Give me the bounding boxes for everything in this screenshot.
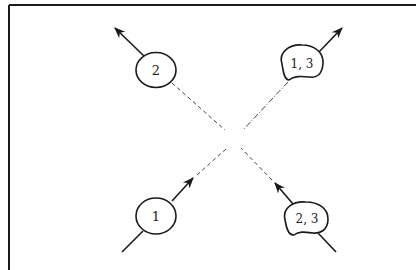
arrow-outgoing-icon [115, 28, 144, 56]
node-label: 2 [152, 63, 160, 78]
node-label: 1 [152, 209, 160, 224]
connector-node-1 [197, 149, 226, 175]
connector-node-1-3 [243, 82, 288, 130]
node-label: 1, 3 [291, 57, 314, 71]
connector-node-2-3 [241, 148, 272, 180]
frame [9, 5, 416, 270]
arrow-outgoing-icon [275, 183, 293, 204]
incoming-line [122, 231, 143, 252]
incoming-line [318, 233, 336, 252]
node-1-3: 1, 3 [281, 28, 342, 80]
node-label: 2, 3 [296, 212, 319, 226]
node-1: 1 [122, 178, 193, 252]
node-2: 2 [115, 28, 176, 88]
scattering-diagram: 2 1, 3 1 2, 3 [0, 0, 420, 270]
connectors [172, 82, 288, 180]
node-2-3: 2, 3 [275, 183, 336, 252]
arrow-outgoing-icon [318, 28, 342, 53]
arrow-outgoing-icon [172, 178, 193, 201]
connector-node-2 [172, 83, 225, 130]
